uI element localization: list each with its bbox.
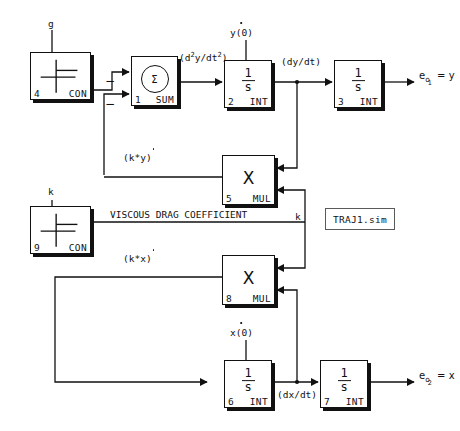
sum-input-sign-2: − — [105, 99, 115, 109]
block-number: 6 — [228, 396, 234, 407]
integrator-glyph: 1 s — [335, 68, 381, 95]
multiply-icon: X — [223, 270, 274, 287]
block-con-4[interactable]: 4 CON — [30, 52, 91, 100]
file-name-tag[interactable]: TRAJ1.sim — [325, 208, 395, 230]
label-viscous-drag-coefficient: VISCOUS DRAG COEFFICIENT — [110, 209, 247, 220]
block-kind: SUM — [156, 94, 174, 105]
label-k-times-xdot: (k*x) — [123, 253, 152, 264]
integrator-glyph: 1 s — [225, 368, 271, 395]
block-number: 2 — [228, 96, 234, 107]
fraction-numerator: 1 — [242, 68, 255, 79]
label-k-times-ydot: (k*y) — [123, 152, 152, 163]
integrator-glyph: 1 s — [225, 68, 271, 95]
block-number: 5 — [226, 193, 232, 204]
label-ydot-initial: y(0) — [230, 27, 253, 38]
wire-dydt-to-mul5 — [277, 82, 297, 168]
block-number: 4 — [34, 88, 40, 99]
label-xdot-initial: x(0) — [230, 327, 253, 338]
block-int-7[interactable]: 1 s 7 INT — [320, 360, 368, 408]
block-kind: MUL — [253, 293, 271, 304]
block-number: 7 — [324, 396, 330, 407]
block-kind: MUL — [253, 193, 271, 204]
block-number: 3 — [338, 96, 344, 107]
block-int-2[interactable]: 1 s 2 INT — [224, 60, 272, 108]
fraction-numerator: 1 — [352, 68, 365, 79]
block-kind: CON — [69, 242, 87, 253]
wire-k-to-mul8 — [277, 222, 305, 268]
fraction-numerator: 1 — [242, 368, 255, 379]
block-kind: INT — [346, 396, 364, 407]
sigma-icon: Σ — [141, 65, 169, 93]
multiply-icon: X — [223, 170, 274, 187]
fraction-denominator: s — [338, 383, 351, 394]
block-int-6[interactable]: 1 s 6 INT — [224, 360, 272, 408]
output-label-2: eo2 = x — [419, 370, 455, 381]
block-con-9[interactable]: 9 CON — [30, 206, 91, 254]
label-d2y-dt2: (d2y/dt2) — [179, 52, 228, 63]
fraction-denominator: s — [352, 83, 365, 94]
label-dx-dt: (dx/dt) — [277, 389, 317, 400]
block-sum-1[interactable]: Σ 1 SUM — [131, 56, 178, 106]
junction-dydt — [295, 80, 299, 84]
output-label-1: eo1 = y — [419, 70, 455, 81]
dot-over-xdot-feedback — [153, 249, 155, 251]
block-number: 9 — [34, 242, 40, 253]
block-number: 1 — [135, 94, 141, 105]
label-k-constant: k — [48, 186, 54, 197]
label-k-bus: k — [295, 211, 301, 222]
block-mul-5[interactable]: X 5 MUL — [222, 155, 275, 205]
block-number: 8 — [226, 293, 232, 304]
dot-over-ydot-feedback — [153, 148, 155, 150]
fraction-numerator: 1 — [338, 368, 351, 379]
block-int-3[interactable]: 1 s 3 INT — [334, 60, 382, 108]
block-diagram-canvas: 4 CON g Σ 1 SUM − − 1 s 2 INT y(0) 1 s — [0, 0, 460, 431]
sum-input-sign-1: − — [105, 76, 115, 86]
block-mul-8[interactable]: X 8 MUL — [222, 255, 275, 305]
fraction-denominator: s — [242, 383, 255, 394]
block-kind: CON — [69, 88, 87, 99]
label-dy-dt: (dy/dt) — [281, 56, 321, 67]
integrator-glyph: 1 s — [321, 368, 367, 395]
wire-dxdt-to-mul8 — [277, 290, 297, 382]
label-g: g — [48, 18, 54, 29]
block-kind: INT — [250, 96, 268, 107]
wire-mul8-to-int6 — [55, 277, 222, 382]
fraction-denominator: s — [242, 83, 255, 94]
block-kind: INT — [360, 96, 378, 107]
block-kind: INT — [250, 396, 268, 407]
junction-dxdt — [295, 380, 299, 384]
